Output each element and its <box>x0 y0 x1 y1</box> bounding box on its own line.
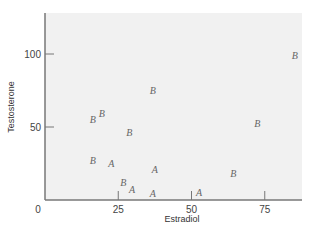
x-tick-label: 75 <box>259 204 271 215</box>
marker-b: B <box>150 85 156 96</box>
x-tick-label: 0 <box>35 204 41 215</box>
marker-b: B <box>230 168 236 179</box>
marker-b: B <box>90 155 96 166</box>
marker-a: A <box>128 184 136 195</box>
scatter-chart: 025507550100 AAAAABBBBBBBBB Estradiol Te… <box>0 0 315 245</box>
marker-b: B <box>254 118 260 129</box>
y-tick-label: 50 <box>30 122 42 133</box>
marker-b: B <box>292 50 298 61</box>
marker-a: A <box>151 164 159 175</box>
x-axis-title: Estradiol <box>164 214 199 224</box>
marker-b: B <box>120 177 126 188</box>
plot-area <box>45 13 302 200</box>
marker-a: A <box>195 187 203 198</box>
marker-a: A <box>107 158 115 169</box>
y-tick-label: 100 <box>24 49 41 60</box>
x-tick-label: 25 <box>113 204 125 215</box>
y-axis-title: Testosterone <box>6 81 16 133</box>
marker-b: B <box>90 114 96 125</box>
marker-a: A <box>149 188 157 199</box>
marker-b: B <box>99 108 105 119</box>
marker-b: B <box>126 127 132 138</box>
